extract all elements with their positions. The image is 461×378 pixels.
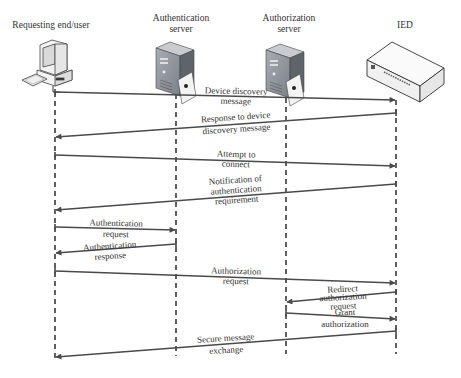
- message-label-authorization-request: Authorization request: [186, 265, 286, 288]
- label-line: authorization: [300, 319, 390, 329]
- message-label-grant-authorization: Grant authorization: [300, 307, 390, 329]
- ied-device-box-icon: [367, 42, 444, 102]
- message-label-device-discovery: Device discovery message: [186, 85, 286, 107]
- message-label-attempt-connect: Attempt to connect: [186, 147, 287, 170]
- label-line: Grant: [300, 307, 390, 317]
- message-label-authentication-request: Authentication request: [66, 217, 166, 240]
- desktop-computer-icon: [22, 40, 72, 92]
- sequence-diagram: Requesting end/user Authentication serve…: [0, 0, 461, 378]
